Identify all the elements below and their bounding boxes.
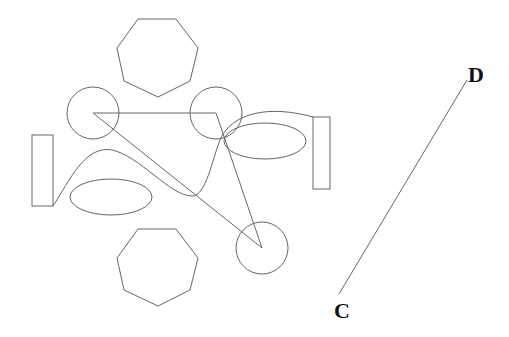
left-rectangle (32, 135, 53, 206)
center-triangle (93, 113, 262, 248)
label-c: C (334, 298, 350, 323)
right-rectangle (313, 117, 330, 189)
top-heptagon (117, 19, 198, 97)
segment-cd (339, 80, 467, 294)
bottom-heptagon (117, 229, 198, 306)
label-d: D (468, 62, 484, 87)
left-ellipse (70, 179, 152, 215)
diagram-canvas: D C (0, 0, 509, 337)
right-ellipse (224, 123, 306, 159)
